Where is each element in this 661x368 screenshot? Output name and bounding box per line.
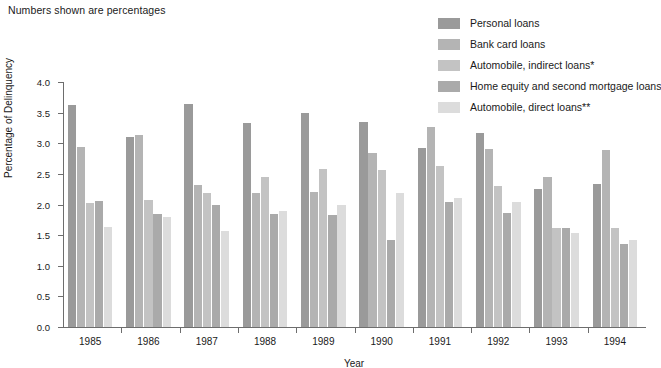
bar [534, 189, 542, 327]
bar [301, 113, 309, 327]
bar-group [126, 82, 171, 327]
legend-swatch-icon [438, 18, 460, 29]
bar [212, 205, 220, 328]
plot-area: 0.00.51.01.52.02.53.03.54.0 198519861987… [63, 82, 646, 327]
bar [476, 133, 484, 327]
x-axis-tick [121, 327, 122, 333]
x-axis-tick [180, 327, 181, 333]
x-axis-tick [471, 327, 472, 333]
bar [543, 177, 551, 327]
bar [77, 147, 85, 327]
bar [494, 186, 502, 327]
y-axis-tick-label: 2.5 [37, 168, 50, 179]
bar [620, 244, 628, 327]
y-axis-tick: 1.0 [58, 266, 63, 267]
bar [95, 201, 103, 327]
x-axis-tick-label: 1985 [79, 336, 101, 347]
bar [135, 135, 143, 327]
bar [337, 205, 345, 328]
bar-group [534, 82, 579, 327]
bar [203, 193, 211, 327]
x-axis-tick [588, 327, 589, 333]
bar-group [243, 82, 288, 327]
bar-group [184, 82, 229, 327]
bar [184, 104, 192, 327]
x-axis-tick-label: 1991 [429, 336, 451, 347]
bar [270, 214, 278, 327]
y-axis-tick: 0.5 [58, 296, 63, 297]
y-axis-title: Percentage of Delinquency [3, 58, 14, 178]
bar [243, 123, 251, 327]
y-axis-tick-label: 3.5 [37, 107, 50, 118]
y-axis-tick: 3.0 [58, 143, 63, 144]
legend-item-label: Bank card loans [470, 39, 545, 50]
bar [427, 127, 435, 327]
bar [104, 227, 112, 327]
bar [368, 153, 376, 327]
bar [261, 177, 269, 327]
bar [126, 137, 134, 327]
bar [86, 203, 94, 327]
bar [68, 105, 76, 327]
legend-item: Personal loans [438, 13, 653, 33]
y-axis-line [63, 82, 64, 327]
bar [571, 233, 579, 327]
bar [602, 150, 610, 327]
bar [436, 166, 444, 327]
legend-item: Automobile, indirect loans* [438, 55, 653, 75]
y-axis-tick-label: 1.5 [37, 230, 50, 241]
bar [310, 192, 318, 327]
x-axis-tick [413, 327, 414, 333]
bar [454, 198, 462, 327]
bar-group [476, 82, 521, 327]
x-axis-tick-label: 1986 [137, 336, 159, 347]
bar-group [418, 82, 463, 327]
chart-caption: Numbers shown are percentages [8, 4, 166, 16]
bar [359, 122, 367, 327]
y-axis-tick-label: 0.5 [37, 291, 50, 302]
bar [512, 202, 520, 327]
x-axis-tick [529, 327, 530, 333]
bar [552, 228, 560, 327]
bar [328, 215, 336, 327]
bar-group [359, 82, 404, 327]
bar [396, 193, 404, 327]
y-axis-tick-label: 0.0 [37, 322, 50, 333]
y-axis-tick-label: 1.0 [37, 260, 50, 271]
bar [593, 184, 601, 327]
bar [562, 228, 570, 327]
bar [252, 193, 260, 327]
x-axis-tick-label: 1994 [604, 336, 626, 347]
x-axis-tick [355, 327, 356, 333]
y-axis-tick-label: 4.0 [37, 77, 50, 88]
y-axis-tick: 3.5 [58, 113, 63, 114]
x-axis-tick [296, 327, 297, 333]
y-axis-tick: 0.0 [58, 327, 63, 328]
y-axis-tick-label: 2.0 [37, 199, 50, 210]
bar [378, 170, 386, 327]
x-axis-tick-label: 1988 [254, 336, 276, 347]
legend-item-label: Personal loans [470, 18, 539, 29]
bar [445, 202, 453, 327]
legend-item-label: Automobile, indirect loans* [470, 60, 594, 71]
x-axis-tick-label: 1987 [196, 336, 218, 347]
bar-group [68, 82, 113, 327]
y-axis-tick-label: 3.0 [37, 138, 50, 149]
bar [629, 240, 637, 327]
legend-swatch-icon [438, 39, 460, 50]
bar [153, 214, 161, 327]
x-axis-tick-label: 1992 [487, 336, 509, 347]
x-axis-tick-label: 1993 [545, 336, 567, 347]
bar [221, 231, 229, 327]
bar [418, 148, 426, 327]
y-axis-tick: 2.0 [58, 205, 63, 206]
bar [279, 211, 287, 327]
y-axis-tick: 2.5 [58, 174, 63, 175]
legend-item: Bank card loans [438, 34, 653, 54]
bar-group [301, 82, 346, 327]
bar [503, 213, 511, 327]
bar [319, 169, 327, 327]
x-axis-tick-label: 1989 [312, 336, 334, 347]
y-axis-tick: 1.5 [58, 235, 63, 236]
